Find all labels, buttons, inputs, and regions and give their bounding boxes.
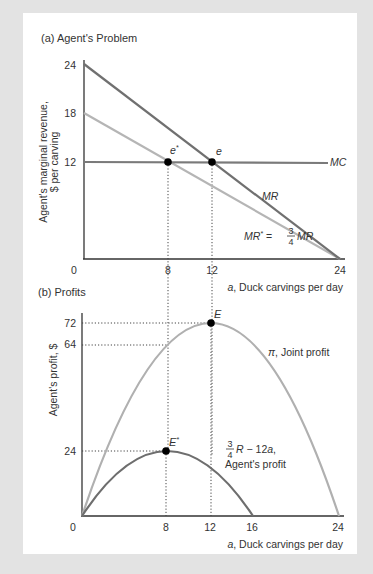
panel-b-ytick-64: 64 — [64, 338, 76, 350]
panel-b: (b) Profits Agent's profit, $ 72 64 24 0… — [38, 286, 344, 550]
panel-b-xtick-12: 12 — [204, 521, 216, 533]
panel-b-xtick-0: 0 — [70, 521, 76, 533]
panel-b-xlabel: a, Duck carvings per day — [227, 538, 343, 550]
svg-text:Agent's profit: Agent's profit — [225, 458, 286, 470]
panel-a-ylabel: Agent's marginal revenue, $ per carving — [37, 101, 60, 223]
label-Estar: E* — [169, 436, 179, 448]
panel-b-title: (b) Profits — [38, 286, 86, 298]
svg-text:3: 3 — [288, 226, 293, 236]
svg-text:4: 4 — [288, 237, 293, 247]
label-mr: MR — [262, 190, 279, 202]
panel-b-ylabel: Agent's profit, $ — [47, 344, 59, 417]
panel-a-title: (a) Agent's Problem — [41, 32, 137, 44]
figure: (a) Agent's Problem Agent's marginal rev… — [0, 0, 373, 574]
panel-a-xtick-24: 24 — [334, 264, 346, 276]
label-estar: e* — [170, 144, 179, 156]
label-agent-profit: 3 4 R − 12a, Agent's profit — [225, 439, 286, 470]
panel-b-ytick-72: 72 — [64, 317, 76, 329]
mc-curve — [84, 162, 328, 163]
svg-text:R − 12a,: R − 12a, — [236, 443, 276, 455]
panel-b-xtick-24: 24 — [332, 521, 344, 533]
svg-text:3: 3 — [227, 439, 232, 449]
panel-a-xlabel: a, Duck carvings per day — [227, 281, 343, 293]
label-e: e — [216, 145, 222, 157]
panel-a-xtick-0: 0 — [71, 264, 77, 276]
panel-a-ytick-12: 12 — [64, 156, 76, 168]
panel-b-ytick-24: 24 — [64, 445, 76, 457]
point-e — [208, 158, 216, 166]
point-E — [207, 319, 215, 327]
point-Estar — [162, 447, 170, 455]
label-joint-profit: π, Joint profit — [268, 346, 329, 358]
svg-text:MR: MR — [297, 230, 314, 242]
svg-text:$ per carving: $ per carving — [48, 131, 60, 192]
svg-text:Agent's profit, $: Agent's profit, $ — [47, 344, 59, 417]
panel-a: (a) Agent's Problem Agent's marginal rev… — [37, 32, 347, 455]
label-E: E — [214, 308, 222, 320]
point-estar — [164, 158, 172, 166]
svg-text:MR* =: MR* = — [244, 230, 272, 242]
panel-b-xtick-8: 8 — [163, 521, 169, 533]
panel-a-ytick-18: 18 — [64, 107, 76, 119]
panel-b-xtick-16: 16 — [246, 521, 258, 533]
panel-a-ytick-24: 24 — [64, 59, 76, 71]
label-mrstar: MR* = 3 4 MR — [244, 226, 314, 247]
label-mc: MC — [330, 156, 347, 168]
